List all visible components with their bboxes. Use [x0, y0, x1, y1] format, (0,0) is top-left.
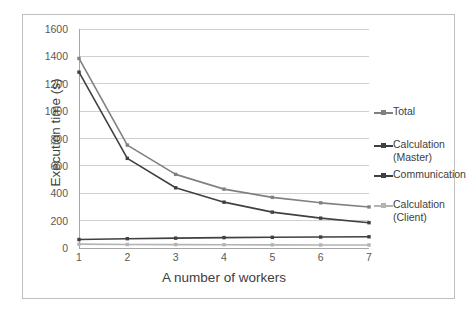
series-marker — [77, 70, 80, 73]
x-tick-label: 4 — [221, 251, 227, 263]
series-marker — [174, 186, 177, 189]
series-marker — [174, 236, 177, 239]
x-axis-tick-labels: 1234567 — [79, 251, 369, 267]
series-marker — [319, 243, 322, 246]
series-marker — [271, 196, 274, 199]
series-marker — [174, 243, 177, 246]
series-marker — [271, 243, 274, 246]
series-marker — [319, 216, 322, 219]
legend-label: Communication — [393, 168, 466, 181]
series-marker — [174, 173, 177, 176]
series-marker — [222, 200, 225, 203]
plot-area — [79, 29, 369, 248]
series-marker — [367, 205, 370, 208]
x-tick-label: 7 — [366, 251, 372, 263]
x-tick-label: 2 — [124, 251, 130, 263]
series-line — [79, 72, 369, 223]
x-tick-label: 6 — [318, 251, 324, 263]
series-marker — [367, 235, 370, 238]
series-lines — [79, 29, 369, 248]
figure-canvas: 02004006008001000120014001600 1234567 A … — [0, 0, 474, 319]
series-marker — [222, 243, 225, 246]
series-marker — [367, 243, 370, 246]
x-tick-label: 3 — [173, 251, 179, 263]
y-axis-title: Execution time (s) — [48, 33, 63, 233]
y-tick-label: 0 — [62, 243, 74, 253]
series-marker — [367, 221, 370, 224]
series-marker — [126, 243, 129, 246]
legend-entry[interactable]: Total — [374, 105, 415, 118]
series-marker — [126, 157, 129, 160]
legend-marker-icon — [374, 141, 393, 151]
series-marker — [77, 238, 80, 241]
legend-label: Calculation (Client) — [393, 198, 445, 223]
series-marker — [271, 210, 274, 213]
series-marker — [319, 201, 322, 204]
series-marker — [126, 237, 129, 240]
series-line — [79, 58, 369, 207]
series-marker — [77, 57, 80, 60]
legend-entry[interactable]: Calculation (Client) — [374, 198, 445, 223]
legend-marker-icon — [374, 201, 393, 211]
legend-label: Calculation (Master) — [393, 138, 445, 163]
series-marker — [319, 235, 322, 238]
legend-entry[interactable]: Communication — [374, 168, 466, 181]
legend-label: Total — [393, 105, 415, 118]
series-marker — [271, 236, 274, 239]
x-axis-title: A number of workers — [79, 270, 369, 285]
legend-entry[interactable]: Calculation (Master) — [374, 138, 445, 163]
series-marker — [222, 236, 225, 239]
x-tick-label: 5 — [269, 251, 275, 263]
x-tick-label: 1 — [76, 251, 82, 263]
legend-marker-icon — [374, 171, 393, 181]
series-marker — [77, 242, 80, 245]
chart-frame: 02004006008001000120014001600 1234567 A … — [22, 14, 455, 299]
series-marker — [126, 143, 129, 146]
series-marker — [222, 187, 225, 190]
legend-marker-icon — [374, 108, 393, 118]
